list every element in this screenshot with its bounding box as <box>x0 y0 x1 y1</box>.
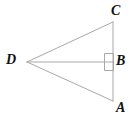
vertex-label-a: A <box>116 101 125 115</box>
segment-ad <box>27 62 113 101</box>
segment-dc <box>27 22 113 62</box>
geometry-figure: C B A D <box>0 0 140 119</box>
vertex-label-c: C <box>111 4 120 18</box>
vertex-label-d: D <box>6 53 16 67</box>
vertex-label-b: B <box>116 54 125 68</box>
